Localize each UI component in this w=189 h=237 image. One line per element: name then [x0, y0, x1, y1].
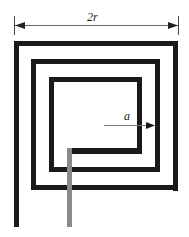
- width-label: 2r: [87, 10, 98, 24]
- return-lead: [67, 148, 72, 227]
- inner-dimension: a: [104, 109, 155, 129]
- inner-label: a: [124, 109, 130, 123]
- arrowhead-right-icon: [146, 122, 155, 129]
- spiral-conductor: [14, 41, 178, 227]
- arrowhead-right-icon: [168, 22, 178, 29]
- spiral-coil-diagram: 2r a: [0, 0, 189, 237]
- arrowhead-left-icon: [15, 22, 25, 29]
- width-dimension: 2r: [15, 10, 179, 35]
